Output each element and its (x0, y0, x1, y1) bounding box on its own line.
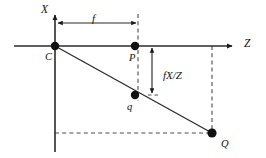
point-p-dot (131, 42, 139, 50)
z-axis-label: Z (244, 37, 251, 49)
perspective-projection-figure: X Z C P q Q f fX/Z (0, 0, 266, 158)
point-p-label: P (128, 52, 136, 63)
focal-length-label: f (92, 12, 97, 24)
point-q-lower-label: q (127, 101, 132, 112)
diagram-canvas: X Z C P q Q f fX/Z (0, 0, 266, 158)
image-height-label: fX/Z (163, 69, 183, 81)
point-c-dot (51, 42, 59, 50)
point-c-label: C (45, 51, 53, 62)
x-axis-label: X (40, 3, 49, 15)
dashed-construction-lines (55, 14, 212, 133)
point-q-scene-label: Q (221, 138, 229, 149)
labels-group: X Z C P q Q f fX/Z (40, 3, 251, 149)
point-q-lower-dot (131, 91, 139, 99)
point-q-scene-dot (207, 128, 216, 137)
